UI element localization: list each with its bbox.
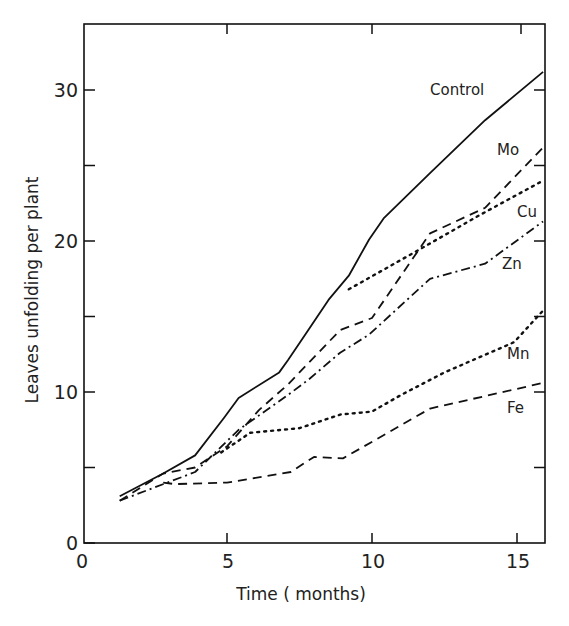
series-label-zn: Zn bbox=[502, 255, 522, 273]
series-zn-line bbox=[120, 221, 543, 500]
series-label-fe: Fe bbox=[507, 399, 524, 417]
y-axis-title: Leaves unfolding per plant bbox=[22, 176, 42, 403]
y-tick-label-10: 10 bbox=[54, 381, 78, 403]
series-label-mo: Mo bbox=[497, 141, 519, 159]
y-tick-label-30: 30 bbox=[54, 79, 78, 101]
series-label-control: Control bbox=[430, 81, 484, 99]
y-tick-label-20: 20 bbox=[54, 230, 78, 252]
x-axis-title: Time ( months) bbox=[235, 584, 366, 604]
series-control-line bbox=[120, 72, 543, 496]
plot-frame bbox=[84, 24, 545, 543]
x-axis-ticks bbox=[227, 533, 517, 543]
series-label-cu: Cu bbox=[517, 203, 537, 221]
series-fe-line bbox=[163, 383, 543, 484]
x-axis-ticks-top bbox=[227, 24, 521, 34]
line-chart: 30 20 10 0 0 5 10 15 Time ( months) Leav… bbox=[0, 0, 569, 626]
x-tick-label-10: 10 bbox=[361, 550, 385, 572]
series-mn-line bbox=[221, 311, 543, 453]
y-axis-ticks bbox=[84, 90, 95, 543]
y-axis-ticks-right bbox=[534, 90, 545, 468]
x-tick-label-0: 0 bbox=[76, 550, 88, 572]
series-label-mn: Mn bbox=[507, 345, 529, 363]
series-mo-line bbox=[120, 147, 543, 500]
x-tick-label-15: 15 bbox=[506, 550, 530, 572]
x-tick-label-5: 5 bbox=[222, 550, 234, 572]
